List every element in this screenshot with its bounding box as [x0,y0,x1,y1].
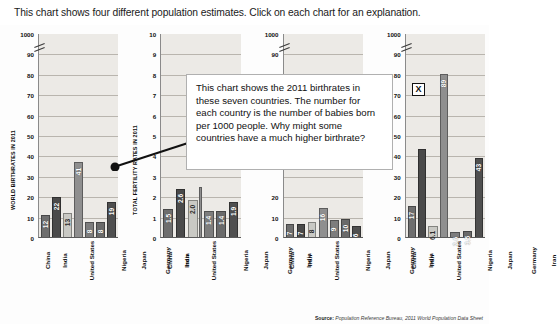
bar-value-label: 17 [408,212,415,219]
y-axis-tick-label: 4 [153,153,156,160]
y-axis-tick-label: 90 [272,51,279,58]
bar[interactable]: 2.6 [450,232,460,237]
bar[interactable]: 8 [85,222,94,237]
y-axis-tick-label: 10 [394,214,401,221]
y-axis-ticks: 10009080706050403020100 [20,34,36,238]
bar[interactable]: 7 [286,224,295,237]
x-axis-label-india: India [423,240,437,300]
bar[interactable]: 89 [440,74,448,237]
bar-value-label: 1.9 [230,207,237,216]
plot-area[interactable]: 176.1892.63.543 [405,34,485,238]
bar-column[interactable]: 22 [52,34,62,237]
x-axis-label-text: India [183,253,190,267]
bar[interactable]: 41 [74,162,83,237]
y-axis-tick-label: 20 [394,194,401,201]
bar-group: 122213418819 [39,34,118,237]
bar-column[interactable] [418,34,427,237]
bar-value-label: 22 [53,202,60,209]
bar-value-label: 9 [331,228,338,232]
x-axis-label-nigeria: Nigeria [479,240,500,300]
y-axis-tick-label: 40 [394,153,401,160]
bar[interactable]: 8 [96,222,105,237]
bar-column[interactable]: 43 [474,34,483,237]
bar-column[interactable]: 2.6 [175,34,186,237]
bar[interactable]: 17 [408,206,416,237]
y-axis-tick-label: 1000 [265,31,279,38]
chart-panel-3[interactable]: 10009020100778169106ChinaIndiaUnited Sta… [245,26,367,324]
bar[interactable]: 1.5 [163,209,173,237]
bar[interactable] [418,149,426,237]
bar[interactable]: 7 [297,224,306,237]
bar[interactable]: 1.9 [229,202,239,237]
chart-panel-2[interactable]: TOTAL FERTILITY RATES IN 201110987654321… [122,26,244,324]
x-axis-label-text: United States [88,241,95,281]
bar-value-label: 8 [309,230,316,234]
bar-column[interactable]: 19 [107,34,117,237]
bar[interactable]: 2.6 [176,189,186,237]
bar-value-label: 6 [353,234,360,238]
bar-column[interactable]: 6.1 [427,34,438,237]
bar-value-label: 1.4 [206,216,213,225]
x-axis-label-japan: Japan [501,240,519,300]
x-axis-label-text: United States [455,241,462,281]
bar[interactable] [199,187,202,237]
bar-column[interactable]: 8 [85,34,95,237]
y-axis-tick-label: 60 [27,112,34,119]
x-axis-label-india: India [57,240,71,300]
bar[interactable]: 22 [52,197,61,237]
y-axis-tick-label: 80 [27,71,34,78]
bar-column[interactable]: 12 [41,34,51,237]
bar-column[interactable]: 3.5 [462,34,473,237]
y-axis-tick-label: 1 [153,214,156,221]
bar[interactable]: 12 [41,215,50,237]
bar[interactable]: 6 [352,226,361,237]
y-axis-tick-label: 9 [153,51,156,58]
bar-column[interactable]: 41 [74,34,84,237]
bar-value-label: 8 [97,230,104,234]
bar-column[interactable]: 17 [407,34,416,237]
bar-column[interactable]: 13 [63,34,73,237]
bar[interactable]: 19 [107,202,116,237]
bar[interactable]: 10 [341,219,350,237]
bar-value-label: 13 [64,219,71,226]
y-axis-tick-label: 30 [27,173,34,180]
y-axis-tick-label: 80 [394,71,401,78]
bar-column[interactable]: 2.6 [450,34,461,237]
bar-value-label: 41 [75,168,82,175]
bar[interactable]: 2.0 [188,200,198,237]
chart-panel-4[interactable]: 10009080706050403020100176.1892.63.543Ch… [367,26,489,324]
bar-column[interactable]: 8 [96,34,106,237]
instruction-text: This chart shows four different populati… [14,7,421,18]
y-axis-tick-label: 60 [394,112,401,119]
bar[interactable]: 13 [63,213,72,237]
x-axis-labels: ChinaIndiaUnited StatesNigeriaJapanGerma… [38,240,118,300]
bar[interactable]: 8 [308,222,317,237]
plot-area[interactable]: 122213418819 [38,34,118,238]
close-icon[interactable]: X [412,83,425,96]
bar[interactable]: 16 [319,208,328,237]
bar[interactable]: 1.4 [204,211,214,237]
y-axis-tick-label: 0 [31,235,34,242]
y-axis-tick-label: 10 [272,214,279,221]
y-axis-tick-label: 10 [149,31,156,38]
x-axis-label-text: India [305,253,312,267]
y-axis-tick-label: 0 [153,235,156,242]
y-axis-tick-label: 70 [27,92,34,99]
bar[interactable]: 6.1 [428,226,438,237]
bar-column[interactable]: 89 [439,34,448,237]
bar[interactable]: 9 [330,220,339,237]
x-axis-label-text: United States [333,241,340,281]
bar[interactable]: 3.5 [463,231,473,237]
bar-value-label: 12 [42,221,49,228]
y-axis-tick-label: 20 [27,194,34,201]
bar-value-label: 6.1 [429,231,436,240]
y-axis-title: TOTAL FERTILITY RATES IN 2011 [132,110,138,230]
bar-column[interactable]: 1.5 [163,34,174,237]
y-axis-tick-label: 20 [272,194,279,201]
bar[interactable]: 43 [475,158,483,237]
bar[interactable]: 1.4 [216,211,226,237]
y-axis-tick-label: 3 [153,173,156,180]
x-axis-labels: ChinaIndiaUnited StatesNigeriaJapanGerma… [160,240,240,300]
chart-panel-1[interactable]: WORLD BIRTHRATES IN 20111000908070605040… [0,26,122,324]
